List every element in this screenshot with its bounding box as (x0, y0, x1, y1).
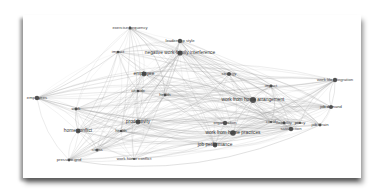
node-label: job strain (312, 123, 329, 127)
node-label: strategy (222, 72, 237, 76)
node-label: negative work-family interference (145, 51, 215, 56)
node-label: job performance (198, 143, 233, 148)
node-label: attitude (131, 89, 145, 93)
node-label: home conflict (64, 129, 92, 134)
node-label: health (115, 129, 126, 133)
node-label: impact (112, 50, 124, 54)
node-label: covid (266, 120, 276, 124)
edge (37, 28, 130, 98)
node-label: leadership style (165, 39, 194, 43)
node-label: job demand (320, 105, 342, 109)
node-label: work life integration (317, 78, 353, 82)
node-label: flexibility (276, 121, 292, 125)
network-diagram-card: exercise frequencyleadership stylenegati… (23, 15, 361, 178)
node-label: productivity (126, 120, 150, 125)
node-label: work from home arrangement (222, 98, 285, 103)
node-label: policy (295, 121, 306, 125)
node-label: employee (134, 72, 155, 77)
node-label: pressure grid (57, 158, 81, 162)
node-label: work home conflict (117, 157, 152, 161)
node-label: employees (27, 96, 47, 100)
node-label: health (159, 93, 170, 97)
node-label: exercise frequency (112, 26, 147, 30)
node-label: stress (91, 148, 102, 152)
node-label: work (72, 107, 81, 111)
node-label: impact (265, 84, 277, 88)
node-label: satisfaction (281, 127, 302, 131)
node-label: organization (214, 121, 237, 125)
node-label: work from home practices (206, 131, 261, 136)
